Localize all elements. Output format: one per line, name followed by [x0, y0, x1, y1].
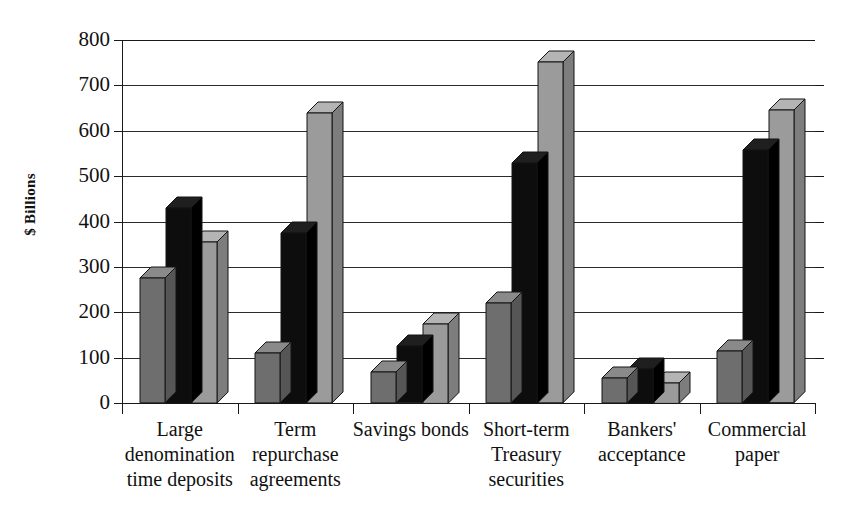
- x-tick-2: [469, 403, 470, 414]
- bar-3d-shape: [717, 340, 755, 405]
- x-tick-1: [353, 403, 354, 414]
- y-tick-left-300: [114, 267, 122, 268]
- y-tick-label-0: 0: [48, 392, 110, 413]
- x-axis-label-line: agreements: [225, 467, 367, 492]
- y-tick-label-800: 800: [48, 29, 110, 50]
- gridline-500: [122, 176, 815, 177]
- y-tick-label-200: 200: [48, 301, 110, 322]
- y-tick-left-100: [114, 358, 122, 359]
- y-axis-title: $ Billions: [22, 145, 39, 265]
- y-tick-left-800: [114, 40, 122, 41]
- bar: [602, 378, 627, 403]
- bar: [255, 353, 280, 403]
- gridline-600: [122, 131, 815, 132]
- x-axis-category-labels: Largedenominationtime depositsTermrepurc…: [122, 417, 815, 509]
- x-tick-origin: [122, 403, 123, 414]
- y-tick-label-700: 700: [48, 74, 110, 95]
- bar: [140, 278, 165, 403]
- gridline-800: [122, 40, 815, 41]
- y-tick-left-700: [114, 85, 122, 86]
- y-tick-left-500: [114, 176, 122, 177]
- y-tick-label-300: 300: [48, 256, 110, 277]
- y-tick-left-600: [114, 131, 122, 132]
- x-tick-4: [700, 403, 701, 414]
- y-axis-tick-labels: 0100200300400500600700800: [48, 0, 110, 511]
- bar-3d-shape: [371, 361, 409, 405]
- x-tick-5: [815, 403, 816, 414]
- plot-area: [122, 40, 815, 403]
- bar: [717, 351, 742, 403]
- y-tick-left-400: [114, 222, 122, 223]
- y-tick-right-500: [815, 176, 824, 177]
- x-tick-3: [584, 403, 585, 414]
- bar-3d-shape: [486, 292, 524, 405]
- y-tick-right-300: [815, 267, 824, 268]
- y-tick-label-100: 100: [48, 347, 110, 368]
- bar: [486, 303, 511, 403]
- y-tick-left-0: [114, 403, 122, 404]
- x-axis-label-line: Commercial: [687, 417, 829, 442]
- y-tick-left-200: [114, 312, 122, 313]
- bar: [371, 372, 396, 403]
- x-axis-label-5: Commercialpaper: [687, 417, 829, 467]
- y-tick-right-100: [815, 358, 824, 359]
- bar-3d-shape: [602, 367, 640, 405]
- gridline-400: [122, 222, 815, 223]
- y-axis-line: [122, 40, 123, 403]
- bar-3d-shape: [140, 267, 178, 405]
- x-axis-label-line: securities: [456, 467, 598, 492]
- y-tick-label-400: 400: [48, 211, 110, 232]
- x-axis-label-line: paper: [687, 442, 829, 467]
- bar-chart: $ Billions 0100200300400500600700800 Lar…: [0, 0, 858, 511]
- y-tick-label-500: 500: [48, 165, 110, 186]
- y-tick-right-200: [815, 312, 824, 313]
- x-axis-label-line: repurchase: [225, 442, 367, 467]
- y-tick-right-600: [815, 131, 824, 132]
- y-tick-label-600: 600: [48, 120, 110, 141]
- y-tick-right-400: [815, 222, 824, 223]
- y-tick-right-700: [815, 85, 824, 86]
- gridline-700: [122, 85, 815, 86]
- x-tick-0: [238, 403, 239, 414]
- bar-3d-shape: [255, 342, 293, 405]
